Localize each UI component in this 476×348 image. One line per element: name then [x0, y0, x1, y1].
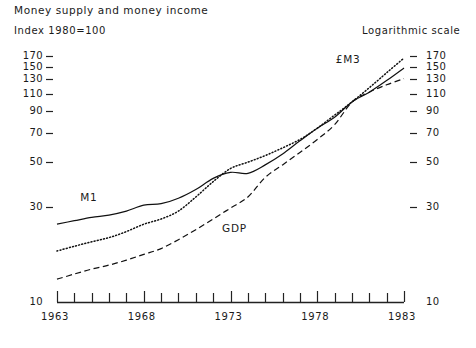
y-tick-label-left: 50 — [9, 156, 43, 167]
y-axis-left-ticks — [46, 57, 53, 208]
y-tick-label-right: 170 — [426, 50, 460, 61]
chart-container: Money supply and money income Index 1980… — [0, 0, 476, 348]
y-tick-label-right: 30 — [426, 201, 460, 212]
y-tick-label-left: 70 — [9, 127, 43, 138]
y-tick-label-right: 110 — [426, 88, 460, 99]
series-paths — [57, 58, 404, 279]
y-tick-label-right: 150 — [426, 61, 460, 72]
y-tick-label-left: 150 — [9, 61, 43, 72]
x-axis — [57, 291, 405, 303]
series-label-m1: M1 — [80, 191, 97, 203]
x-tick-label: 1963 — [41, 311, 69, 322]
chart-svg — [0, 0, 476, 348]
y-tick-label-right: 130 — [426, 73, 460, 84]
series-line-gdp — [57, 79, 404, 280]
y-tick-label-left: 170 — [9, 50, 43, 61]
y-tick-label-right: 50 — [426, 156, 460, 167]
x-tick-label: 1978 — [301, 311, 329, 322]
y-axis-right-ticks — [410, 57, 417, 208]
y-tick-label-left: 130 — [9, 73, 43, 84]
y-tick-label-right: 10 — [426, 296, 460, 307]
y-tick-label-left: 110 — [9, 88, 43, 99]
series-label-gdp: GDP — [222, 222, 247, 234]
series-label-em3: £M3 — [336, 53, 361, 65]
y-tick-label-left: 90 — [9, 105, 43, 116]
x-tick-label: 1973 — [215, 311, 243, 322]
y-tick-label-right: 70 — [426, 127, 460, 138]
x-tick-label: 1968 — [128, 311, 156, 322]
series-line-m1 — [57, 68, 404, 224]
y-tick-label-right: 90 — [426, 105, 460, 116]
x-tick-label: 1983 — [388, 311, 416, 322]
y-tick-label-left: 10 — [9, 296, 43, 307]
y-tick-label-left: 30 — [9, 201, 43, 212]
